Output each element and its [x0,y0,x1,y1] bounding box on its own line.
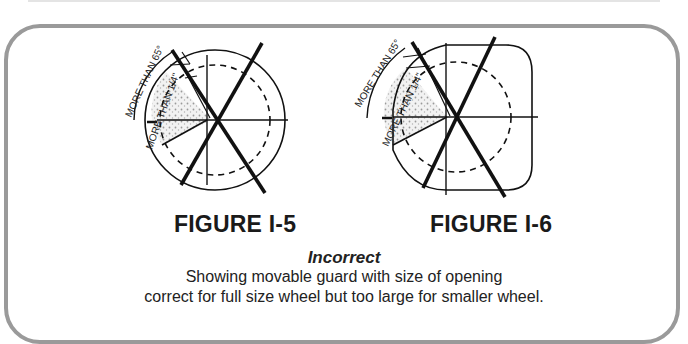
caption-line-2: correct for full size wheel but too larg… [0,288,688,306]
caption-line-1: Showing movable guard with size of openi… [0,268,688,286]
caption-title: Incorrect [0,248,688,268]
figure-i6-label: FIGURE I-6 [430,211,552,238]
figure-i5-label: FIGURE I-5 [174,211,296,238]
